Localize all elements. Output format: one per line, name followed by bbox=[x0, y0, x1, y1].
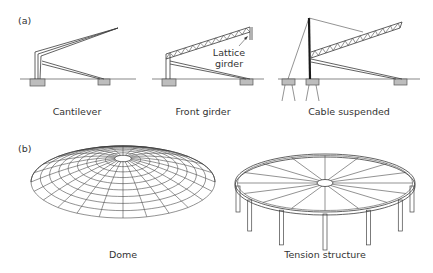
pile bbox=[306, 85, 309, 101]
footing bbox=[240, 79, 253, 85]
annotation-girder: girder bbox=[215, 58, 243, 69]
cantilever-drawing bbox=[20, 28, 136, 86]
footing bbox=[98, 79, 110, 85]
roof-beam bbox=[41, 28, 118, 56]
dome-crown-ring bbox=[115, 155, 132, 161]
annotation-lattice: Lattice bbox=[213, 47, 245, 58]
footing bbox=[394, 79, 407, 85]
backstay-cable bbox=[288, 18, 309, 79]
seating-rake bbox=[42, 64, 100, 79]
tension-cable-spoke bbox=[332, 184, 405, 193]
mast bbox=[309, 18, 310, 79]
tension-cable-spoke bbox=[244, 173, 317, 182]
caption-dome: Dome bbox=[109, 249, 137, 260]
pile bbox=[282, 85, 285, 101]
seating-rake bbox=[311, 62, 396, 79]
footing bbox=[30, 79, 45, 86]
lattice-girder-web bbox=[311, 23, 400, 58]
support-column bbox=[367, 210, 371, 245]
support-column bbox=[280, 210, 284, 245]
support-column bbox=[248, 200, 252, 231]
caption-cable-suspended: Cable suspended bbox=[308, 106, 390, 117]
hanger-cable bbox=[309, 18, 363, 32]
front-girder-drawing bbox=[152, 27, 264, 86]
panel-label-a: (a) bbox=[18, 15, 31, 26]
seating-rake bbox=[42, 61, 104, 79]
lattice-girder-top-chord bbox=[311, 22, 402, 52]
column bbox=[40, 56, 41, 79]
tension-cable-spoke bbox=[244, 184, 317, 193]
caption-tension-structure: Tension structure bbox=[283, 249, 366, 260]
support-column bbox=[323, 214, 327, 250]
tension-structure-drawing bbox=[235, 154, 415, 250]
dome-meridian bbox=[130, 160, 203, 200]
support-column bbox=[398, 200, 402, 231]
tension-ring-hub bbox=[317, 180, 333, 187]
footing bbox=[282, 79, 295, 85]
footing bbox=[162, 79, 176, 86]
roof-beam bbox=[35, 28, 118, 52]
footing bbox=[306, 79, 319, 85]
pile bbox=[316, 85, 319, 101]
seating-rake bbox=[311, 59, 402, 79]
roof-beam bbox=[38, 28, 118, 54]
panel-label-b: (b) bbox=[18, 143, 31, 154]
dome-meridian bbox=[43, 160, 116, 200]
dome-drawing bbox=[31, 146, 215, 218]
roof-structures-diagram: (a) (b) Cantilever bbox=[0, 0, 433, 273]
cable-suspended-drawing bbox=[278, 18, 420, 101]
pile bbox=[292, 85, 295, 101]
caption-front-girder: Front girder bbox=[175, 106, 230, 117]
caption-cantilever: Cantilever bbox=[53, 106, 102, 117]
tension-cable-spoke bbox=[332, 173, 405, 182]
